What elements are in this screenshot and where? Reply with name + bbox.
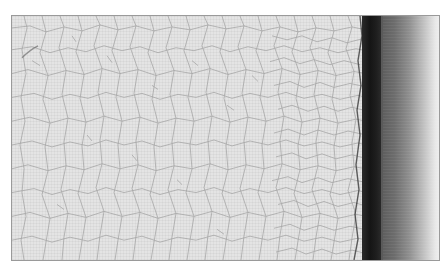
photo-frame bbox=[11, 15, 440, 261]
cropped-caption bbox=[0, 0, 442, 5]
crack-network bbox=[12, 16, 366, 260]
cracked-surface bbox=[12, 16, 366, 260]
dark-vertical-band bbox=[362, 16, 382, 260]
gradient-fade-region bbox=[383, 16, 440, 260]
